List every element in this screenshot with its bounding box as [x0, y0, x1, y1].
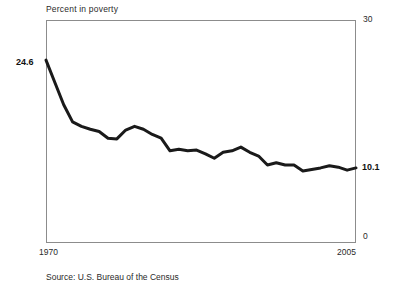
- y-axis-tick-max: 30: [363, 14, 372, 24]
- x-axis-tick-end: 2005: [337, 247, 356, 257]
- y-axis-tick-min: 0: [363, 231, 368, 241]
- poverty-rate-line: [46, 60, 356, 171]
- plot-area: [46, 20, 356, 243]
- chart-page: Percent in poverty 30 0 1970 2005 24.6 1…: [0, 0, 407, 292]
- end-value-label: 10.1: [362, 162, 380, 172]
- x-axis-tick-start: 1970: [39, 247, 58, 257]
- chart-title: Percent in poverty: [46, 4, 118, 14]
- start-value-label: 24.6: [16, 57, 34, 67]
- source-note: Source: U.S. Bureau of the Census: [46, 272, 179, 282]
